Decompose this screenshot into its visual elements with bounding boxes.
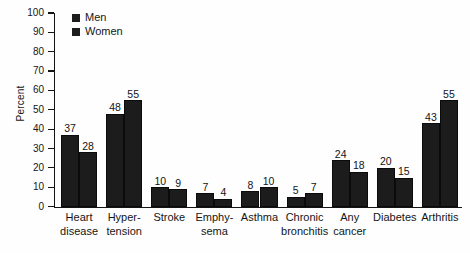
y-tick-label: 10 (18, 182, 44, 192)
x-axis-label-line1: Any (340, 211, 359, 223)
y-tick-mark (48, 206, 54, 207)
bar-women: 4 (214, 199, 232, 207)
x-axis-label-line1: Arthritis (421, 211, 458, 223)
bar-women: 55 (124, 100, 142, 206)
y-tick-label-text: 80 (18, 47, 44, 57)
bar-women: 18 (350, 172, 368, 207)
y-tick-label-text: 50 (18, 105, 44, 115)
bar-men: 37 (61, 135, 79, 207)
x-axis-label-line1: Heart (66, 211, 93, 223)
y-tick-label: 80 (18, 47, 44, 57)
y-tick-label: 70 (18, 66, 44, 76)
x-axis-label-8: Arthritis (408, 211, 470, 225)
y-tick-label: 90 (18, 27, 44, 37)
y-tick-label: 0 (18, 202, 44, 212)
y-tick-label-text: 60 (18, 85, 44, 95)
bar-value-label: 48 (109, 102, 121, 113)
y-tick-label: 60 (18, 85, 44, 95)
y-tick-mark (48, 148, 54, 149)
bar-value-label: 55 (443, 89, 455, 100)
y-tick-mark (48, 32, 54, 33)
bar-men: 8 (241, 191, 259, 206)
x-axis-label-line1: Hyper- (108, 211, 141, 223)
plot-area: 372848551097481057241820154355 (55, 13, 462, 207)
y-tick-mark (48, 129, 54, 130)
bar-men: 43 (422, 123, 440, 206)
y-tick-mark (48, 187, 54, 188)
x-axis-line (54, 207, 462, 208)
y-tick-label-text: 70 (18, 66, 44, 76)
bar-value-label: 20 (380, 156, 392, 167)
y-tick-mark (48, 51, 54, 52)
bar-men: 5 (287, 197, 305, 207)
bar-value-label: 43 (425, 112, 437, 123)
bar-men: 48 (106, 114, 124, 207)
y-tick-label: 20 (18, 163, 44, 173)
y-tick-label: 40 (18, 124, 44, 134)
bar-value-label: 55 (127, 89, 139, 100)
y-tick-mark (48, 90, 54, 91)
x-axis-label-line2: sema (182, 225, 246, 239)
bar-men: 20 (377, 168, 395, 207)
bar-value-label: 8 (248, 180, 254, 191)
bar-value-label: 24 (335, 149, 347, 160)
y-tick-label-text: 40 (18, 124, 44, 134)
bar-value-label: 15 (398, 166, 410, 177)
y-tick-mark (48, 12, 54, 13)
bar-women: 15 (395, 178, 413, 207)
bar-value-label: 10 (154, 176, 166, 187)
bar-value-label: 7 (202, 182, 208, 193)
x-axis-label-line2: cancer (318, 225, 382, 239)
y-tick-label: 50 (18, 105, 44, 115)
y-tick-label: 30 (18, 144, 44, 154)
bar-men: 24 (332, 160, 350, 206)
bar-men: 10 (151, 187, 169, 206)
bar-value-label: 18 (353, 160, 365, 171)
y-tick-label-text: 0 (18, 202, 44, 212)
y-tick-label-text: 10 (18, 182, 44, 192)
bar-value-label: 9 (175, 178, 181, 189)
bar-women: 7 (305, 193, 323, 207)
bar-value-label: 5 (293, 185, 299, 196)
bar-women: 10 (260, 187, 278, 206)
bar-value-label: 28 (82, 141, 94, 152)
x-axis-label-line2: tension (92, 225, 156, 239)
y-tick-label: 100 (18, 8, 44, 18)
bar-value-label: 7 (311, 182, 317, 193)
bar-value-label: 37 (64, 123, 76, 134)
y-tick-label-text: 20 (18, 163, 44, 173)
bar-women: 55 (440, 100, 458, 206)
y-tick-label-text: 90 (18, 27, 44, 37)
bar-women: 9 (169, 189, 187, 206)
x-axis-label-line1: Stroke (153, 211, 185, 223)
y-tick-label-text: 30 (18, 144, 44, 154)
bar-value-label: 10 (263, 176, 275, 187)
bar-value-label: 4 (220, 187, 226, 198)
y-tick-mark (48, 167, 54, 168)
bar-chart: Percent 1009080706050403020100 Men Women… (0, 0, 470, 253)
y-tick-mark (48, 109, 54, 110)
y-tick-mark (48, 70, 54, 71)
y-tick-label-text: 100 (18, 8, 44, 18)
bar-women: 28 (79, 152, 97, 206)
bar-men: 7 (196, 193, 214, 207)
